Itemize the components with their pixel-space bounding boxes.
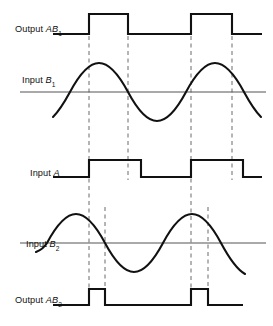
label-output-ab1-symbol: AB bbox=[46, 24, 58, 34]
label-input-a-symbol: A bbox=[54, 168, 60, 178]
label-output-ab1-prefix: Output bbox=[15, 24, 46, 34]
label-output-ab2: Output AB2 bbox=[15, 296, 62, 305]
label-input-b1-prefix: Input bbox=[22, 75, 46, 85]
label-output-ab2-prefix: Output bbox=[15, 295, 46, 305]
label-output-ab1-subscript: 1 bbox=[58, 30, 62, 37]
timing-diagram-canvas bbox=[0, 0, 273, 326]
waveform-output-ab2 bbox=[53, 289, 243, 305]
label-input-a-prefix: Input bbox=[30, 168, 54, 178]
label-input-b2-symbol: B bbox=[50, 239, 56, 249]
label-input-b1: Input B1 bbox=[22, 76, 56, 85]
label-input-b2-prefix: Input bbox=[26, 239, 50, 249]
waveform-input-b2 bbox=[36, 214, 245, 274]
label-input-b2-subscript: 2 bbox=[56, 245, 60, 252]
timing-diagram: Output AB1 Input B1 Input A Input B2 Out… bbox=[0, 0, 273, 326]
label-output-ab1: Output AB1 bbox=[15, 25, 62, 34]
waveform-input-a bbox=[53, 160, 262, 177]
label-output-ab2-symbol: AB bbox=[46, 295, 58, 305]
label-output-ab2-subscript: 2 bbox=[58, 301, 62, 308]
waveform-output-ab1 bbox=[53, 14, 262, 34]
label-input-a: Input A bbox=[30, 169, 60, 178]
label-input-b1-symbol: B bbox=[46, 75, 52, 85]
label-input-b1-subscript: 1 bbox=[52, 81, 56, 88]
label-input-b2: Input B2 bbox=[26, 240, 60, 249]
